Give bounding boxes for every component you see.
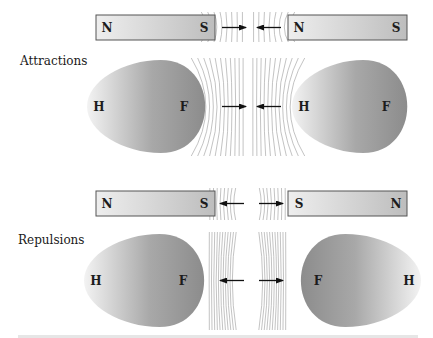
field-line <box>218 232 220 330</box>
magnet-left-pole-label: N <box>294 21 305 35</box>
field-line <box>204 58 214 156</box>
egg-pointed-end-label: H <box>298 100 309 114</box>
field-line <box>283 58 293 156</box>
magnet-left-pole-label: N <box>102 197 113 211</box>
magnet-right-pole-label: S <box>392 21 401 35</box>
bar-magnet <box>96 191 215 216</box>
bar-magnet <box>96 15 215 40</box>
field-line <box>220 12 222 42</box>
attractions-label: Attractions <box>20 54 87 68</box>
magnet-left-pole-label: N <box>102 21 113 35</box>
egg-blunt-end-label: F <box>382 100 391 114</box>
field-line <box>283 232 284 330</box>
field-line <box>211 232 212 330</box>
bar-magnet <box>288 191 407 216</box>
field-line <box>215 58 221 156</box>
egg-pointed-end-label: H <box>90 274 101 288</box>
egg-blunt-end-label: F <box>180 100 189 114</box>
repulsions-label: Repulsions <box>18 233 85 247</box>
field-line <box>216 232 217 330</box>
bar-magnet <box>288 15 407 40</box>
diagram-canvas: NSNSHFHFNSSNHFHF <box>0 0 433 338</box>
egg-pointed-end-label: H <box>93 100 104 114</box>
magnet-left-pole-label: S <box>295 197 304 211</box>
field-line <box>214 232 215 330</box>
egg-blunt-end-label: F <box>314 274 323 288</box>
magnet-right-pole-label: S <box>200 197 209 211</box>
egg-blunt-end-label: F <box>179 274 188 288</box>
magnet-right-pole-label: S <box>200 21 209 35</box>
egg-pointed-end-label: H <box>403 274 414 288</box>
magnet-right-pole-label: N <box>391 197 402 211</box>
field-line <box>217 188 218 220</box>
magnet-egg-diagram: Attractions Repulsions NSNSHFHFNSSNHFHF <box>0 0 433 338</box>
